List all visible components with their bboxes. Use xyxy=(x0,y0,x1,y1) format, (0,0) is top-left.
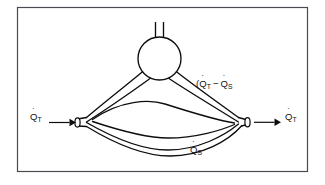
figure-border xyxy=(18,8,308,172)
tube-opening-right xyxy=(245,118,250,127)
outlet-subscript: T xyxy=(293,116,297,123)
circular-chamber xyxy=(138,37,181,80)
figure-container: QT QT QS (QT−QS xyxy=(0,0,325,185)
shunt-symbol: Q xyxy=(190,145,198,155)
label-inlet-flow: QT xyxy=(30,112,42,122)
diagram-canvas xyxy=(0,0,325,185)
branch-subscript-shunt: S xyxy=(228,83,233,90)
inlet-symbol: Q xyxy=(30,112,38,122)
label-outlet-flow: QT xyxy=(285,112,297,122)
outlet-symbol: Q xyxy=(285,112,293,122)
branch-symbol-total: Q xyxy=(199,79,207,89)
branch-subscript-total: T xyxy=(207,83,211,90)
label-branch-flow: (QT−QS xyxy=(196,79,233,89)
branch-symbol-shunt: Q xyxy=(221,79,229,89)
label-shunt-flow: QS xyxy=(190,145,202,155)
inlet-subscript: T xyxy=(38,116,42,123)
branch-operator: − xyxy=(211,78,221,89)
shunt-subscript: S xyxy=(198,149,203,156)
